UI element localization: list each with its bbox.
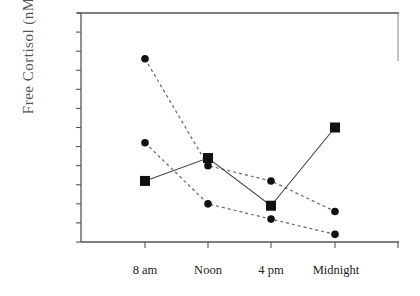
x-tick-label-midnight: Midnight [313, 263, 360, 278]
data-point-square [140, 176, 150, 186]
data-point-circle [331, 231, 339, 239]
chart-container: Free Cortisol (nM) 8 am Noon 4 pm Midnig… [0, 0, 420, 296]
data-point-circle [141, 139, 149, 147]
series-line-2 [145, 128, 335, 206]
data-point-square [266, 201, 276, 211]
plot-area [0, 0, 420, 296]
x-tick-label-4pm: 4 pm [258, 263, 283, 278]
x-tick-label-8am: 8 am [133, 263, 158, 278]
data-point-circle [141, 55, 149, 63]
data-point-square [203, 153, 213, 163]
y-axis-label: Free Cortisol (nM) [20, 0, 40, 128]
series-line-0 [145, 59, 335, 212]
series-line-1 [145, 143, 335, 235]
x-tick-label-noon: Noon [194, 263, 222, 278]
data-point-circle [267, 177, 275, 185]
data-point-square [330, 123, 340, 133]
data-point-circle [267, 215, 275, 223]
data-point-circle [331, 208, 339, 216]
data-point-circle [204, 200, 212, 208]
